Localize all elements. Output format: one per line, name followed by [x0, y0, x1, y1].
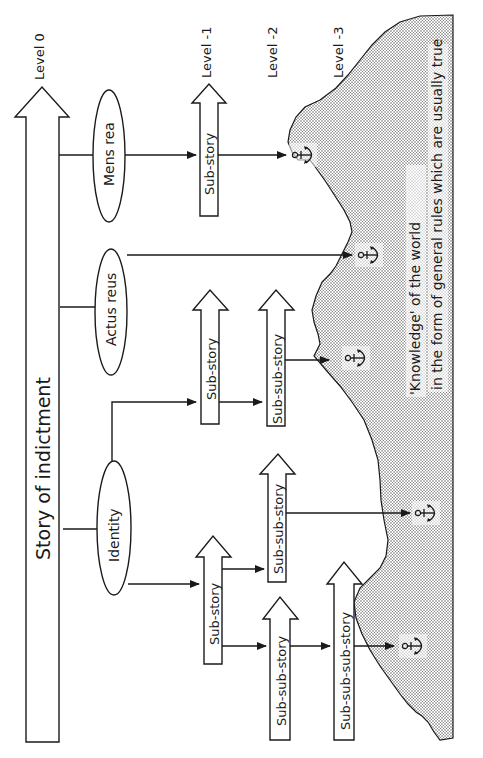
- level-3-label: Level -3: [331, 27, 346, 78]
- level-1-label: Level -1: [199, 27, 214, 78]
- identity-substory-a-subsub-label: Sub-sub-story: [270, 333, 285, 424]
- identity-label: Identity: [106, 508, 122, 562]
- identity-substory-b-subsub2-label: Sub-sub-story: [274, 635, 289, 726]
- anchor-icon-identity-subsubsub: [399, 634, 427, 658]
- level-0-label: Level 0: [32, 33, 47, 80]
- knowledge-caption-2: in the form of general rules which are u…: [428, 39, 448, 392]
- identity-subsubsub-label: Sub-sub-sub-story: [338, 611, 353, 730]
- anchor-icon-mens-rea: [289, 143, 317, 167]
- story-anchoring-diagram: 'Knowledge' of the world in the form of …: [0, 0, 483, 758]
- anchor-icon-identity-subsub-a: [342, 346, 370, 370]
- identity-substory-b-label: Sub-story: [207, 582, 222, 645]
- knowledge-caption: 'Knowledge' of the world: [406, 165, 426, 397]
- knowledge-line-1: 'Knowledge' of the world: [407, 222, 423, 395]
- mens-rea-substory-label: Sub-story: [202, 132, 217, 195]
- mens-rea-label: Mens rea: [101, 122, 117, 186]
- identity-substory-a-label: Sub-story: [204, 337, 219, 400]
- main-story-label: Story of indictment: [32, 377, 54, 560]
- knowledge-line-2: in the form of general rules which are u…: [429, 39, 445, 390]
- level-2-label: Level -2: [265, 27, 280, 78]
- anchor-icon-identity-subsub-b: [412, 501, 440, 525]
- actus-reus-label: Actus reus: [103, 273, 119, 346]
- edge-identity-substory-a: [112, 402, 196, 462]
- anchor-icon-actus-reus: [355, 243, 383, 267]
- identity-substory-b-subsub-label: Sub-sub-story: [271, 483, 286, 574]
